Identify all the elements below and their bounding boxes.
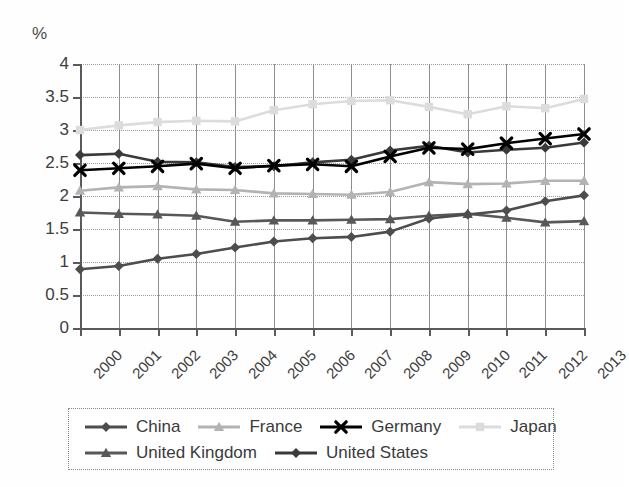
legend-marker-diamond-icon bbox=[83, 418, 129, 436]
data-point-marker bbox=[463, 110, 471, 118]
x-tick-label: 2000 bbox=[90, 346, 126, 382]
legend-row: ChinaFranceGermanyJapan bbox=[83, 414, 549, 440]
x-tick bbox=[584, 328, 586, 336]
data-point-marker bbox=[579, 190, 589, 200]
data-point-marker bbox=[75, 150, 85, 160]
legend-marker-triangle-icon bbox=[83, 444, 129, 462]
y-tick-label: 0.5 bbox=[45, 285, 69, 305]
legend-row: United KingdomUnited States bbox=[83, 440, 549, 466]
x-tick-label: 2007 bbox=[361, 346, 397, 382]
data-point-marker bbox=[346, 232, 356, 242]
legend-item-germany[interactable]: Germany bbox=[318, 417, 441, 437]
series-france bbox=[75, 176, 589, 199]
x-tick-label: 2010 bbox=[477, 346, 513, 382]
series-germany bbox=[75, 129, 589, 176]
data-point-marker bbox=[308, 233, 318, 243]
data-point-marker bbox=[270, 106, 278, 114]
data-point-marker bbox=[541, 104, 549, 112]
data-point-marker bbox=[269, 237, 279, 247]
legend-marker-square-icon bbox=[457, 418, 503, 436]
data-point-marker bbox=[114, 149, 124, 159]
data-point-marker bbox=[501, 206, 511, 216]
series-japan bbox=[76, 95, 588, 134]
legend-label: Germany bbox=[371, 417, 441, 437]
legend-label: France bbox=[249, 417, 302, 437]
x-tick bbox=[235, 328, 237, 336]
data-point-marker bbox=[502, 102, 510, 110]
y-tick bbox=[73, 229, 80, 231]
y-axis-unit-label: % bbox=[32, 24, 48, 44]
data-point-marker bbox=[230, 242, 240, 252]
y-tick-label: 3.5 bbox=[45, 87, 69, 107]
data-point-marker bbox=[153, 254, 163, 264]
x-tick bbox=[429, 328, 431, 336]
x-tick-label: 2012 bbox=[555, 346, 591, 382]
data-point-marker bbox=[153, 118, 161, 126]
y-tick-label: 1.5 bbox=[45, 219, 69, 239]
legend-label: Japan bbox=[510, 417, 556, 437]
x-tick-label: 2013 bbox=[594, 346, 629, 382]
data-point-marker bbox=[191, 249, 201, 259]
y-tick-label: 1 bbox=[60, 252, 69, 272]
data-point-marker bbox=[192, 117, 200, 125]
x-tick-label: 2009 bbox=[438, 346, 474, 382]
data-point-marker bbox=[580, 95, 588, 103]
x-tick bbox=[196, 328, 198, 336]
x-tick bbox=[351, 328, 353, 336]
y-tick-label: 3 bbox=[60, 120, 69, 140]
y-tick bbox=[73, 97, 80, 99]
y-tick bbox=[73, 64, 80, 66]
data-point-marker bbox=[115, 121, 123, 129]
y-tick bbox=[73, 328, 80, 330]
data-point-marker bbox=[101, 422, 111, 432]
data-point-marker bbox=[231, 117, 239, 125]
series-china bbox=[75, 190, 589, 274]
y-tick-label: 0 bbox=[60, 318, 69, 338]
x-tick-label: 2001 bbox=[128, 346, 164, 382]
data-point-marker bbox=[386, 96, 394, 104]
data-point-marker bbox=[291, 448, 301, 458]
data-point-marker bbox=[75, 264, 85, 274]
x-tick-label: 2005 bbox=[283, 346, 319, 382]
legend-item-france[interactable]: France bbox=[196, 417, 302, 437]
legend-label: United States bbox=[326, 443, 428, 463]
x-tick bbox=[119, 328, 121, 336]
x-tick bbox=[158, 328, 160, 336]
x-tick bbox=[506, 328, 508, 336]
y-tick bbox=[73, 262, 80, 264]
x-tick bbox=[274, 328, 276, 336]
data-point-marker bbox=[114, 261, 124, 271]
x-tick bbox=[313, 328, 315, 336]
legend-item-japan[interactable]: Japan bbox=[457, 417, 556, 437]
x-tick bbox=[545, 328, 547, 336]
legend-marker-x-icon bbox=[318, 418, 364, 436]
plot-area: 00.511.522.533.54 2000200120022003200420… bbox=[80, 64, 584, 328]
x-tick-label: 2004 bbox=[245, 346, 281, 382]
legend-item-united-kingdom[interactable]: United Kingdom bbox=[83, 443, 257, 463]
y-tick bbox=[73, 295, 80, 297]
data-point-marker bbox=[463, 209, 473, 219]
y-tick-label: 2.5 bbox=[45, 153, 69, 173]
x-tick-label: 2006 bbox=[322, 346, 358, 382]
legend-item-united-states[interactable]: United States bbox=[273, 443, 428, 463]
y-tick-label: 4 bbox=[60, 54, 69, 74]
legend-item-china[interactable]: China bbox=[83, 417, 180, 437]
x-tick-label: 2008 bbox=[400, 346, 436, 382]
data-point-marker bbox=[308, 100, 316, 108]
data-point-marker bbox=[347, 97, 355, 105]
y-tick-label: 2 bbox=[60, 186, 69, 206]
x-tick bbox=[390, 328, 392, 336]
legend-label: United Kingdom bbox=[136, 443, 257, 463]
x-tick-label: 2003 bbox=[206, 346, 242, 382]
legend-label: China bbox=[136, 417, 180, 437]
data-point-marker bbox=[476, 423, 484, 431]
legend-marker-triangle-icon bbox=[196, 418, 242, 436]
x-tick bbox=[80, 328, 82, 336]
x-tick-label: 2002 bbox=[167, 346, 203, 382]
series-lines bbox=[80, 64, 584, 328]
data-point-marker bbox=[385, 227, 395, 237]
legend-marker-diamond-icon bbox=[273, 444, 319, 462]
x-tick-label: 2011 bbox=[516, 346, 551, 381]
chart-legend: ChinaFranceGermanyJapanUnited KingdomUni… bbox=[68, 408, 554, 470]
data-point-marker bbox=[425, 103, 433, 111]
